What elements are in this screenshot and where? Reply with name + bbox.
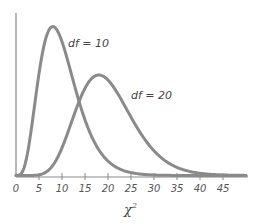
x-tick-label: 5 — [36, 183, 42, 194]
x-axis-title: χ2 — [123, 201, 137, 217]
curve-label-df10: df = 10 — [68, 37, 109, 50]
x-tick-label: 0 — [13, 183, 19, 194]
chi-square-chart: 051015202530354045 df = 10 df = 20 χ2 — [0, 0, 262, 224]
x-tick-label: 30 — [148, 183, 161, 194]
x-tick-label: 45 — [217, 183, 230, 194]
curve-label-df20: df = 20 — [131, 89, 172, 102]
x-tick-label: 40 — [194, 183, 207, 194]
x-tick-label: 10 — [56, 183, 69, 194]
x-tick-label: 15 — [79, 183, 92, 194]
x-tick-label: 25 — [125, 183, 138, 194]
x-tick-label: 20 — [102, 183, 115, 194]
x-tick-label: 35 — [171, 183, 184, 194]
